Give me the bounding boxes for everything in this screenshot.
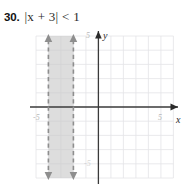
x-axis-tick-label-negative-5: -5 xyxy=(33,114,40,122)
x-axis-tick-label-positive-5: 5 xyxy=(158,114,162,122)
x-axis-label: x xyxy=(176,115,180,125)
y-axis-label: y xyxy=(103,31,107,41)
graph-canvas xyxy=(0,26,188,186)
problem-expression: |x + 3| < 1 xyxy=(24,9,80,25)
y-axis-tick-label-negative-5: -5 xyxy=(84,160,91,168)
coordinate-graph: -5 5 5 -5 y x xyxy=(0,26,188,186)
y-axis-tick-label-positive-5: 5 xyxy=(86,32,90,40)
problem-number: 30. xyxy=(4,11,19,23)
x-axis-arrowhead xyxy=(171,104,179,111)
y-axis-arrowhead xyxy=(95,31,102,38)
problem-statement: 30. |x + 3| < 1 xyxy=(4,9,80,27)
